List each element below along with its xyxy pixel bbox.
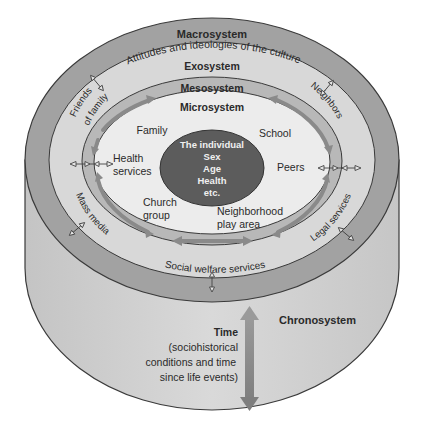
- individual-attr-age: Age: [203, 163, 221, 174]
- time-label: Time: [214, 326, 238, 338]
- individual-attr-sex: Sex: [204, 151, 222, 162]
- health-services-label-line1: Health: [113, 152, 144, 164]
- ecological-systems-diagram: The individual Sex Age Health etc. Macro…: [0, 0, 425, 436]
- microsystem-label: Microsystem: [180, 101, 244, 113]
- peers-label: Peers: [277, 161, 304, 173]
- individual-attr-health: Health: [197, 175, 226, 186]
- church-group-label-line2: group: [143, 209, 170, 221]
- health-services-label-line2: services: [113, 165, 152, 177]
- individual-node: The individual Sex Age Health etc.: [160, 130, 264, 206]
- church-group-label-line1: Church: [143, 196, 177, 208]
- mesosystem-label: Mesosystem: [180, 82, 243, 94]
- time-description-line1: (sociohistorical: [169, 341, 238, 353]
- school-label: School: [259, 127, 291, 139]
- neighborhood-label-line1: Neighborhood: [217, 205, 283, 217]
- family-label: Family: [137, 124, 169, 136]
- individual-title: The individual: [180, 139, 244, 150]
- neighborhood-label-line2: play area: [217, 218, 260, 230]
- time-description-line2: conditions and time: [146, 356, 237, 368]
- time-description-line3: since life events): [160, 371, 238, 383]
- chronosystem-label: Chronosystem: [279, 314, 356, 326]
- individual-attr-etc: etc.: [204, 187, 220, 198]
- exosystem-label: Exosystem: [184, 60, 239, 72]
